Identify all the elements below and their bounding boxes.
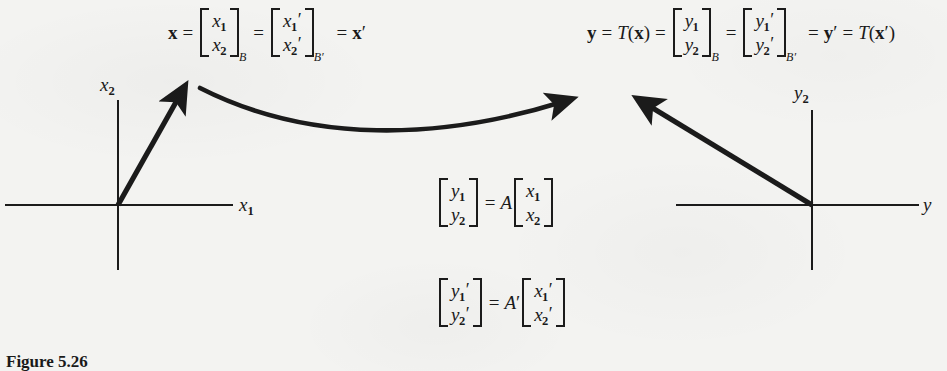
x-vector-basis-B-prime: x1′ x2′ B′ [271,8,324,57]
entry-row-1: x1′ [283,11,302,30]
entry-row-1: y1 [451,181,466,200]
vector-entries: y1 y2 [682,8,703,57]
transform-T-of-x-prime: T(x′) [858,23,895,42]
equals-sign: = [489,293,500,312]
entry-row-1: x1′ [534,281,553,300]
equals-sign-1: = [602,23,613,42]
y-vector-lhs: y [587,23,597,42]
bracket-left [522,278,531,327]
codomain-vector-arrow [620,60,947,270]
equals-sign-4: = [808,23,819,42]
entry-row-1: x1 [526,181,541,200]
equals-sign-2: = [253,23,264,42]
bracket-left [271,8,280,57]
figure-canvas: x = x1 x2 B = x1′ x2′ B′ = x′ y = T(x) [0,0,947,371]
transform-T-of-x: T(x) [617,23,650,42]
bracket-left [439,178,448,227]
bracket-right [556,278,565,327]
entry-row-2: y2 [685,35,700,54]
entry-row-2: y2′ [755,35,774,54]
entry-row-2: x2 [212,35,227,54]
bracket-right [473,278,482,327]
bracket-left [673,8,682,57]
x-prime-column-vector: x1′ x2′ [522,278,565,327]
matrix-equation-A-prime: y1′ y2′ = A′ x1′ x2′ [437,278,567,327]
y-column-vector: y1 y2 [439,178,478,227]
matrix-A-prime-label: A′ [504,293,520,312]
x-vector-equation: x = x1 x2 B = x1′ x2′ B′ = x′ [168,8,366,57]
bracket-right [544,178,553,227]
vector-entries: y1 y2 [448,178,469,227]
vector-entries: x1′ x2′ [280,8,305,57]
y-prime-label: y′ [824,23,838,42]
entry-row-2: y2′ [451,305,470,324]
x-prime-label: x′ [352,23,366,42]
bracket-left [514,178,523,227]
bracket-right [305,8,314,57]
matrix-A-label: A [500,193,512,212]
entry-row-1: y1 [685,11,700,30]
bracket-right [777,8,786,57]
x-vector-lhs: x [168,23,178,42]
entry-row-2: x2 [526,205,541,224]
vector-entries: y1′ y2′ [752,8,777,57]
equals-sign: = [485,193,496,212]
bracket-left [200,8,209,57]
vector-entries: y1′ y2′ [448,278,473,327]
entry-row-1: y1′ [451,281,470,300]
codomain-plot: y2 y [620,60,947,270]
bracket-right [230,8,239,57]
entry-row-2: x2′ [283,35,302,54]
y-prime-column-vector: y1′ y2′ [439,278,482,327]
y-vector-basis-B: y1 y2 B [673,8,719,57]
equals-sign-1: = [183,23,194,42]
entry-row-1: y1′ [755,11,774,30]
figure-caption: Figure 5.26 [6,352,88,371]
entry-row-1: x1 [212,11,227,30]
x-vector-basis-B: x1 x2 B [200,8,246,57]
vector-entries: x1 x2 [523,178,544,227]
bracket-left [439,278,448,327]
equals-sign-2: = [655,23,666,42]
y-vector-basis-B-prime: y1′ y2′ B′ [743,8,796,57]
equals-sign-5: = [842,23,853,42]
transformation-arrow [190,78,590,138]
vector-entries: x1′ x2′ [531,278,556,327]
x-column-vector: x1 x2 [514,178,553,227]
bracket-right [702,8,711,57]
equals-sign-3: = [726,23,737,42]
matrix-equation-A: y1 y2 = A x1 x2 [437,178,555,227]
basis-subscript-B-prime: B′ [314,51,324,63]
bracket-left [743,8,752,57]
vector-entries: x1 x2 [209,8,230,57]
entry-row-2: y2 [451,205,466,224]
bracket-right [469,178,478,227]
y-vector-equation: y = T(x) = y1 y2 B = y1′ y2′ B′ = y′ = T… [587,8,895,57]
equals-sign-3: = [337,23,348,42]
entry-row-2: x2′ [534,305,553,324]
